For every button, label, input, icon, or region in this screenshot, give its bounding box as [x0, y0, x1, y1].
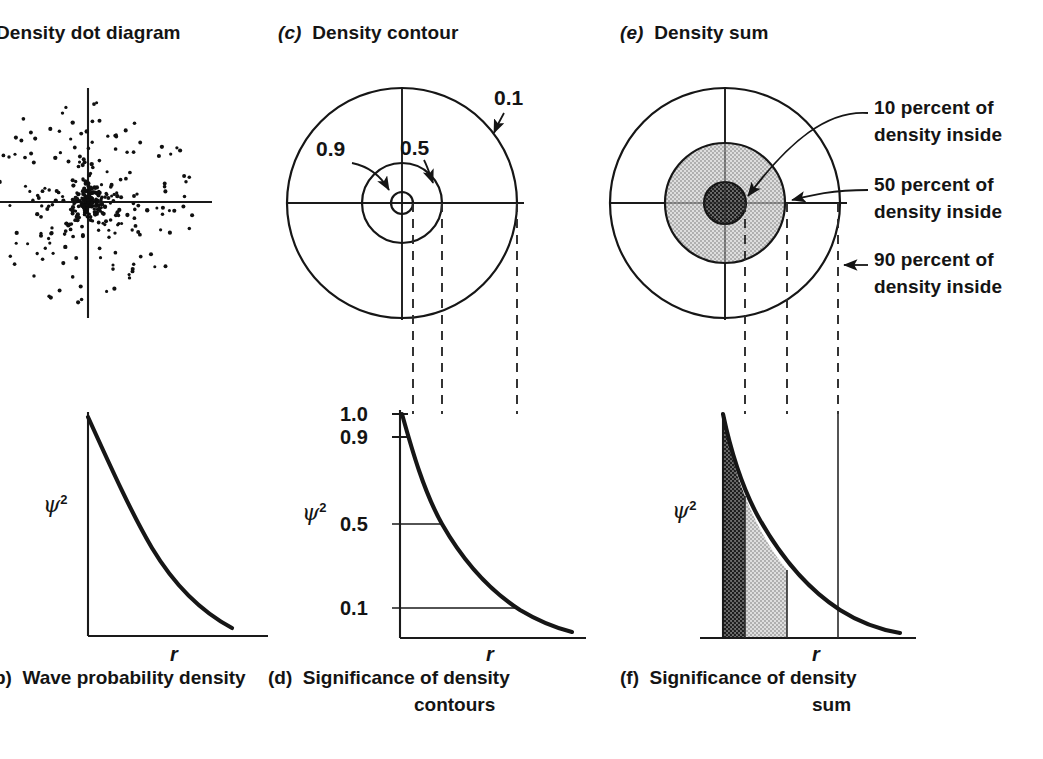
annotation-90-line2: density inside [874, 276, 1002, 298]
panel-cd-droplines [413, 203, 517, 414]
annotation-90-line1: 90 percent of [874, 249, 994, 271]
panel-c-title: (c) Density contour [278, 22, 458, 44]
panel-f-caption-line2: sum [812, 694, 851, 716]
panel-d-caption-text: Significance of density [303, 667, 510, 688]
panel-d-curve [402, 414, 572, 632]
panel-b-psi-symbol: ψ [43, 492, 60, 517]
panel-f-region-10 [723, 414, 745, 638]
panel-f-x-axis-label: r [812, 643, 820, 666]
panel-d-ytick-1-0: 1.0 [340, 403, 368, 426]
panel-e-title-text: Density sum [654, 22, 768, 43]
panel-d-x-axis-label: r [486, 643, 494, 666]
annotation-10-line2: density inside [874, 124, 1002, 146]
panel-b-caption: b) Wave probability density [0, 667, 246, 689]
panel-e-tag: (e) [620, 22, 644, 43]
annotation-10-line1: 10 percent of [874, 97, 994, 119]
panel-d-ytick-0-5: 0.5 [340, 513, 368, 536]
contour-label-0-5: 0.5 [400, 136, 429, 160]
panel-a-title-text: Density dot diagram [0, 22, 181, 43]
panel-f-region-50 [745, 496, 787, 638]
annotation-50-line2: density inside [874, 201, 1002, 223]
contour-label-0-1: 0.1 [494, 86, 523, 110]
panel-d-ytick-0-9: 0.9 [340, 426, 368, 449]
panel-f-caption-line1: (f) Significance of density [620, 667, 856, 689]
panel-e-leader-50 [792, 190, 868, 200]
panel-c-tag: (c) [278, 22, 302, 43]
panel-d-tag: (d) [268, 667, 292, 688]
panel-d-psi-exponent: 2 [319, 500, 326, 515]
panel-d-ytick-0-1: 0.1 [340, 597, 368, 620]
panel-d-caption-line1: (d) Significance of density [268, 667, 510, 689]
panel-b-axes [88, 412, 268, 636]
panel-d-y-axis-label: ψ2 [302, 500, 327, 525]
panel-b-caption-text: Wave probability density [23, 667, 246, 688]
panel-d-psi-symbol: ψ [302, 500, 319, 525]
panel-b-curve [88, 417, 232, 628]
panel-f-psi-exponent: 2 [689, 498, 696, 513]
panel-d-caption-line2: contours [414, 694, 495, 716]
panel-f-psi-symbol: ψ [672, 498, 689, 523]
panel-b-y-axis-label: ψ2 [43, 492, 68, 517]
panel-b-psi-exponent: 2 [60, 492, 67, 507]
panel-b-tag: b) [0, 667, 12, 688]
panel-a-axes [0, 88, 212, 318]
figure-root: Density dot diagram (c) Density contour … [0, 0, 1043, 759]
panel-b-x-axis-label: r [170, 643, 178, 666]
panel-f-y-axis-label: ψ2 [672, 498, 697, 523]
annotation-50-line1: 50 percent of [874, 174, 994, 196]
panel-f-caption-text: Significance of density [650, 667, 857, 688]
panel-c-leader-0-1 [494, 113, 504, 133]
panel-a-title: Density dot diagram [0, 22, 181, 44]
panel-c-title-text: Density contour [312, 22, 458, 43]
contour-label-0-9: 0.9 [316, 137, 345, 161]
panel-e-title: (e) Density sum [620, 22, 768, 44]
panel-f-tag: (f) [620, 667, 639, 688]
